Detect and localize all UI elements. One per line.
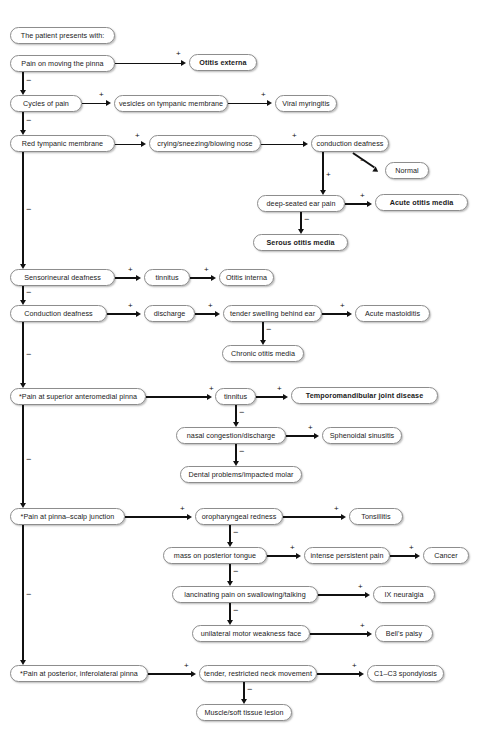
sign-minus-serous-otitis-media: − xyxy=(304,215,309,223)
node-intro: The patient presents with: xyxy=(10,27,115,44)
sign-plus-discharge: + xyxy=(128,302,133,310)
sign-plus-vesicles: + xyxy=(99,91,104,99)
node-discharge: discharge xyxy=(144,305,195,322)
node-tonsillitis: Tonsillitis xyxy=(349,508,403,525)
node-vesicles-tympanic: vesicles on tympanic membrane xyxy=(114,95,228,112)
node-cycles-of-pain: Cycles of pain xyxy=(10,95,82,112)
node-otitis-externa: Otitis externa xyxy=(189,54,257,71)
flowchart-canvas: The patient presents with: Pain on movin… xyxy=(0,0,480,737)
node-intense-persistent-pain: intense persistent pain xyxy=(304,547,390,564)
arrowhead-discharge xyxy=(136,311,141,317)
sign-minus-conduction-deafness: − xyxy=(26,288,31,296)
sign-plus-cancer: + xyxy=(409,544,414,552)
edge-pain-superior-to-pain-pinna-scalp xyxy=(22,405,24,504)
arrowhead-otitis-externa xyxy=(181,60,186,66)
sign-plus-tinnitus-1: + xyxy=(128,266,133,274)
sign-plus-intense-persistent-pain: + xyxy=(290,544,295,552)
node-bells-palsy: Bell's palsy xyxy=(375,625,433,642)
sign-minus-pain-posterior-inferolateral: − xyxy=(26,590,31,598)
arrowhead-intense-persistent-pain xyxy=(296,553,301,559)
edge-mass-tongue-to-intense-pain xyxy=(267,555,296,557)
node-unilateral-motor-weakness: unilateral motor weakness face xyxy=(192,625,310,642)
node-lancinating-pain: lancinating pain on swallowing/talking xyxy=(172,586,318,603)
edge-red-tympanic-to-crying xyxy=(115,144,141,146)
edge-lancinating-to-unilateral-weakness xyxy=(229,603,231,620)
edge-deep-seated-to-serous-otitis-media xyxy=(300,212,302,229)
arrowhead-c1-c3-spondylosis xyxy=(359,671,364,677)
sign-plus-c1-c3-spondylosis: + xyxy=(352,662,357,670)
arrowhead-otitis-interna xyxy=(211,275,216,281)
edge-cycles-to-vesicles xyxy=(82,103,106,105)
arrowhead-tinnitus-1 xyxy=(136,275,141,281)
node-cancer: Cancer xyxy=(423,547,469,564)
edge-nasal-congestion-to-dental xyxy=(235,444,237,461)
edge-deep-seated-to-acute-otitis-media xyxy=(345,203,367,205)
arrowhead-tender-swelling xyxy=(215,311,220,317)
edge-discharge-to-tender-swelling xyxy=(195,313,215,315)
edge-conduction-deafness-to-discharge xyxy=(107,313,136,315)
node-chronic-otitis-media: Chronic otitis media xyxy=(222,345,304,362)
edge-red-tympanic-to-sensorineural xyxy=(22,152,24,265)
node-pain-moving-pinna: Pain on moving the pinna xyxy=(10,55,115,72)
node-pain-pinna-scalp: *Pain at pinna–scalp junction xyxy=(10,508,125,525)
sign-minus-cycles-of-pain: − xyxy=(26,76,31,84)
edge-intense-pain-to-cancer xyxy=(390,555,415,557)
sign-plus-otitis-externa: + xyxy=(176,50,181,58)
edge-cycles-to-red-tympanic xyxy=(22,112,24,130)
arrowhead-tmj-disease xyxy=(283,394,288,400)
edge-pain-pinna-to-otitis-externa xyxy=(115,63,181,65)
edge-conduction-deafness-to-pain-superior xyxy=(22,322,24,384)
edge-pain-posterior-to-tender-neck xyxy=(148,673,191,675)
sign-minus-pain-superior-anteromedial: − xyxy=(26,350,31,358)
sign-plus-acute-otitis-media: + xyxy=(360,192,365,200)
sign-plus-acute-mastoiditis: + xyxy=(340,302,345,310)
edge-pain-superior-to-tinnitus xyxy=(146,396,207,398)
sign-minus-pain-pinna-scalp: − xyxy=(26,455,31,463)
sign-plus-viral-myringitis: + xyxy=(261,91,266,99)
sign-plus-tmj-disease: + xyxy=(277,385,282,393)
sign-plus-tinnitus-2: + xyxy=(209,385,214,393)
node-dental-problems: Dental problems/impacted molar xyxy=(180,466,302,483)
edge-conduction-deafness-to-deep-seated xyxy=(322,152,324,190)
sign-minus-dental-problems: − xyxy=(239,447,244,455)
arrowhead-tinnitus-2 xyxy=(207,394,212,400)
sign-plus-deep-seated-ear-pain: + xyxy=(326,171,331,179)
node-tinnitus-2: tinnitus xyxy=(215,388,256,405)
node-c1-c3-spondylosis: C1–C3 spondylosis xyxy=(367,665,444,682)
node-pain-posterior-inferolateral: *Pain at posterior, inferolateral pinna xyxy=(10,665,148,682)
edge-tinnitus-2-to-nasal-congestion xyxy=(235,405,237,422)
node-sphenoidal-sinusitis: Sphenoidal sinusitis xyxy=(322,427,402,444)
node-acute-otitis-media: Acute otitis media xyxy=(375,194,468,211)
node-viral-myringitis: Viral myringitis xyxy=(275,95,337,112)
sign-plus-ix-neuralgia: + xyxy=(358,583,363,591)
arrowhead-oropharyngeal-redness xyxy=(187,514,192,520)
sign-plus-tender-restricted-neck: + xyxy=(184,662,189,670)
arrowhead-acute-mastoiditis xyxy=(347,311,352,317)
node-sensorineural-deafness: Sensorineural deafness xyxy=(10,269,115,286)
arrowhead-crying-sneezing xyxy=(141,141,146,147)
arrowhead-tender-restricted-neck xyxy=(191,671,196,677)
edge-pain-pinna-to-cycles xyxy=(22,72,24,90)
edge-oropharyngeal-to-mass-tongue xyxy=(229,525,231,542)
node-crying-sneezing: crying/sneezing/blowing nose xyxy=(149,135,261,152)
arrowhead-tonsillitis xyxy=(341,514,346,520)
node-deep-seated-ear-pain: deep-seated ear pain xyxy=(257,195,345,212)
edge-unilateral-weakness-to-bells-palsy xyxy=(310,633,367,635)
sign-plus-bells-palsy: + xyxy=(360,622,365,630)
sign-plus-tender-swelling: + xyxy=(208,302,213,310)
arrowhead-conduction-deafness-top xyxy=(303,141,308,147)
sign-minus-unilateral-motor-weakness: − xyxy=(233,606,238,614)
node-nasal-congestion: nasal congestion/discharge xyxy=(176,427,286,444)
edge-oropharyngeal-to-tonsillitis xyxy=(283,516,341,518)
arrowhead-sphenoidal-sinusitis xyxy=(314,433,319,439)
edge-mass-tongue-to-lancinating-pain xyxy=(229,564,231,581)
sign-plus-oropharyngeal-redness: + xyxy=(180,505,185,513)
edge-tender-swelling-to-acute-mastoiditis xyxy=(322,313,347,315)
sign-minus-lancinating-pain: − xyxy=(233,567,238,575)
arrowhead-normal xyxy=(372,167,380,175)
node-oropharyngeal-redness: oropharyngeal redness xyxy=(195,508,283,525)
node-normal: Normal xyxy=(385,162,429,179)
node-tinnitus-1: tinnitus xyxy=(144,269,190,286)
edge-sensorineural-to-conduction-deafness xyxy=(22,286,24,300)
sign-minus-red-tympanic: − xyxy=(26,116,31,124)
